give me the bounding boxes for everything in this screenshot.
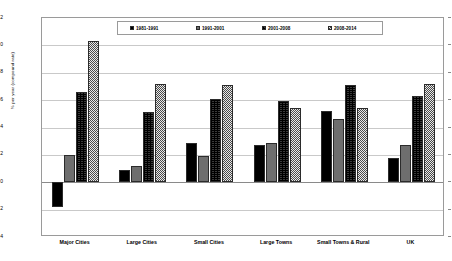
bar-slot — [222, 18, 233, 235]
bar-slot — [400, 18, 411, 235]
legend-label: 1981-1991 — [136, 26, 158, 31]
bar-group — [378, 18, 445, 235]
y-tick-label: -0.2 — [0, 205, 3, 211]
bar-group — [311, 18, 378, 235]
y-tick-mark — [448, 209, 451, 210]
y-tick-mark — [448, 127, 451, 128]
bar-slot — [119, 18, 130, 235]
legend-item[interactable]: 1981-1991 — [118, 26, 184, 31]
y-tick-label: 0.2 — [0, 150, 3, 156]
legend-swatch-icon — [130, 26, 134, 30]
bar-slot — [388, 18, 399, 235]
bar-groups — [42, 18, 443, 235]
bar-slot — [266, 18, 277, 235]
y-tick-label: 0.0 — [0, 178, 3, 184]
bar-slot — [76, 18, 87, 235]
bar[interactable] — [333, 119, 344, 182]
y-tick-mark — [448, 72, 451, 73]
bar[interactable] — [388, 158, 399, 183]
bar-group — [176, 18, 243, 235]
bar[interactable] — [64, 155, 75, 182]
y-tick-mark — [448, 99, 451, 100]
y-tick-label: 0.6 — [0, 96, 3, 102]
legend-swatch-icon — [262, 26, 266, 30]
x-tick-label: Large Towns — [260, 239, 292, 245]
y-tick-mark — [448, 181, 451, 182]
bar-group — [244, 18, 311, 235]
bar[interactable] — [131, 166, 142, 182]
bar[interactable] — [52, 182, 63, 207]
bar-slot — [198, 18, 209, 235]
y-tick-label: 0.8 — [0, 68, 3, 74]
bar[interactable] — [357, 108, 368, 182]
bar[interactable] — [278, 101, 289, 182]
legend-label: 1991-2001 — [202, 26, 224, 31]
y-axis-title: % per year (compound rate) — [10, 31, 15, 131]
x-tick-label: Large Cities — [127, 239, 157, 245]
bar-group — [42, 18, 109, 235]
bar[interactable] — [290, 108, 301, 182]
bar[interactable] — [266, 143, 277, 183]
chart-legend: 1981-19911991-20012001-20082008-2014 — [117, 21, 383, 35]
bar-chart: % per year (compound rate) 1.21.00.80.60… — [0, 0, 452, 261]
bar[interactable] — [88, 41, 99, 182]
bar[interactable] — [254, 145, 265, 182]
bar[interactable] — [186, 143, 197, 183]
bar-slot — [321, 18, 332, 235]
bar-slot — [290, 18, 301, 235]
legend-item[interactable]: 2008-2014 — [316, 26, 382, 31]
x-tick-label: UK — [407, 239, 415, 245]
x-tick-label: Small Cities — [194, 239, 224, 245]
bar[interactable] — [198, 156, 209, 182]
bar-slot — [412, 18, 423, 235]
bar-slot — [254, 18, 265, 235]
bar[interactable] — [210, 99, 221, 182]
y-tick-label: -0.4 — [0, 233, 3, 239]
bar[interactable] — [424, 84, 435, 183]
bar-slot — [345, 18, 356, 235]
legend-label: 2001-2008 — [268, 26, 290, 31]
bar[interactable] — [155, 84, 166, 183]
bar-slot — [64, 18, 75, 235]
bar[interactable] — [119, 170, 130, 182]
bar-group — [109, 18, 176, 235]
y-tick-label: 1.0 — [0, 41, 3, 47]
plot-area — [41, 17, 444, 236]
y-tick-label: 1.2 — [0, 14, 3, 20]
y-tick-label: 0.4 — [0, 123, 3, 129]
bar-slot — [131, 18, 142, 235]
bar-slot — [155, 18, 166, 235]
bar[interactable] — [345, 85, 356, 182]
bar[interactable] — [222, 85, 233, 182]
bar[interactable] — [76, 92, 87, 182]
y-tick-mark — [448, 17, 451, 18]
bar-slot — [210, 18, 221, 235]
bar-slot — [278, 18, 289, 235]
legend-item[interactable]: 1991-2001 — [184, 26, 250, 31]
bar[interactable] — [143, 112, 154, 182]
legend-swatch-icon — [196, 26, 200, 30]
x-tick-label: Major Cities — [60, 239, 90, 245]
bar[interactable] — [400, 145, 411, 182]
bar-slot — [357, 18, 368, 235]
bar-slot — [143, 18, 154, 235]
bar-slot — [186, 18, 197, 235]
y-tick-mark — [448, 44, 451, 45]
legend-label: 2008-2014 — [334, 26, 356, 31]
y-tick-mark — [448, 236, 451, 237]
bar-slot — [88, 18, 99, 235]
x-tick-label: Small Towns & Rural — [317, 239, 369, 245]
bar-slot — [52, 18, 63, 235]
legend-swatch-icon — [328, 26, 332, 30]
bar-slot — [333, 18, 344, 235]
bar[interactable] — [412, 96, 423, 182]
legend-item[interactable]: 2001-2008 — [250, 26, 316, 31]
bar[interactable] — [321, 111, 332, 182]
bar-slot — [424, 18, 435, 235]
x-axis-category-labels: Major CitiesLarge CitiesSmall CitiesLarg… — [41, 239, 444, 253]
y-tick-mark — [448, 154, 451, 155]
